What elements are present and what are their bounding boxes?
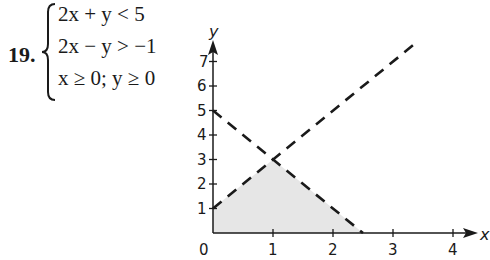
y-axis-label: y bbox=[208, 22, 219, 41]
y-tick-3: 3 bbox=[197, 151, 207, 169]
y-tick-4: 4 bbox=[197, 126, 207, 144]
y-tick-7: 7 bbox=[199, 53, 209, 71]
x-tick-2: 2 bbox=[328, 241, 338, 259]
line-2x-minus-y-eq-neg1 bbox=[213, 42, 417, 209]
y-tick-1: 1 bbox=[197, 200, 207, 218]
y-tick-6: 6 bbox=[197, 77, 207, 95]
x-axis-label: x bbox=[479, 225, 490, 244]
y-tick-5: 5 bbox=[197, 102, 207, 120]
y-tick-2: 2 bbox=[197, 175, 207, 193]
x-tick-1: 1 bbox=[268, 241, 278, 259]
x-tick-4: 4 bbox=[448, 241, 458, 259]
x-tick-3: 3 bbox=[388, 241, 398, 259]
x-tick-0: 0 bbox=[199, 241, 209, 259]
graph: 0 1 2 3 4 1 2 3 4 5 6 7 x y bbox=[0, 0, 490, 260]
